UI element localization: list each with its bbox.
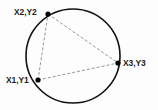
- point-label-p2: X2,Y2: [14, 8, 37, 17]
- chord-p2-p3: [48, 14, 118, 63]
- point-label-p3: X3,Y3: [123, 59, 146, 68]
- diagram-canvas: X1,Y1 X2,Y2 X3,Y3: [0, 0, 158, 110]
- point-marker-p2: [45, 11, 50, 16]
- circumcircle-outline: [26, 9, 120, 103]
- point-marker-p3: [115, 60, 120, 65]
- point-marker-p1: [35, 77, 40, 82]
- chord-p1-p3: [38, 63, 118, 80]
- point-label-p1: X1,Y1: [6, 76, 29, 85]
